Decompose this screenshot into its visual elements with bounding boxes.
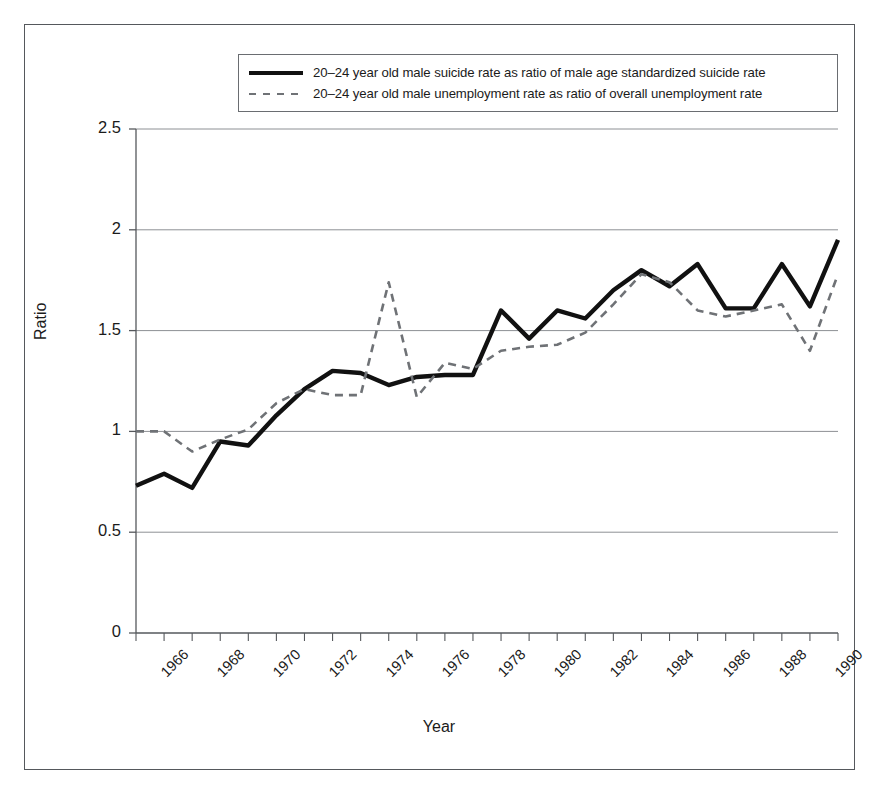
legend-item-unemployment-rate: 20–24 year old male unemployment rate as… — [247, 83, 827, 104]
chart-legend: 20–24 year old male suicide rate as rati… — [238, 54, 838, 112]
legend-label-suicide-rate: 20–24 year old male suicide rate as rati… — [313, 65, 765, 80]
gridlines — [136, 129, 838, 532]
x-axis-title: Year — [0, 718, 878, 736]
series-line-1 — [136, 240, 838, 488]
y-axis-title: Ratio — [32, 303, 50, 340]
y-tick-label: 2 — [65, 219, 121, 238]
x-axis-ticks — [136, 633, 838, 641]
legend-swatch-solid-line — [247, 66, 305, 80]
legend-label-unemployment-rate: 20–24 year old male unemployment rate as… — [313, 86, 762, 101]
legend-item-suicide-rate: 20–24 year old male suicide rate as rati… — [247, 62, 827, 83]
y-tick-label: 0 — [65, 622, 121, 641]
y-tick-label: 2.5 — [65, 118, 121, 137]
y-tick-label: 0.5 — [65, 521, 121, 540]
series-line-2 — [136, 274, 838, 451]
y-axis-ticks — [129, 129, 136, 633]
legend-swatch-dashed-line — [247, 87, 305, 101]
data-series-layer — [136, 240, 838, 488]
y-tick-label: 1.5 — [65, 320, 121, 339]
y-tick-label: 1 — [65, 420, 121, 439]
chart-plot-area — [0, 0, 878, 794]
